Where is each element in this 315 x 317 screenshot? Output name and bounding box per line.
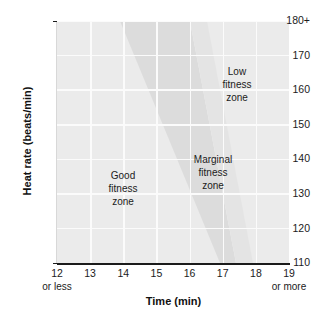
zone-label-good-fitness-line-3: zone — [93, 195, 153, 208]
zone-label-low-fitness: Low fitness zone — [207, 65, 267, 104]
plot-area: Low fitness zone Good fitness zone Margi… — [57, 21, 289, 263]
gridline-x-13 — [90, 21, 92, 263]
gridline-y-140 — [57, 159, 289, 161]
y-tick-label-160: 160 — [263, 84, 315, 95]
gridline-x-17 — [223, 21, 225, 263]
y-tick-mark-110 — [53, 263, 57, 264]
x-axis-title: Time (min) — [57, 295, 290, 307]
gridline-x-14 — [123, 21, 125, 263]
zone-label-marginal-fitness-line-3: zone — [179, 179, 247, 192]
gridline-x-15 — [156, 21, 158, 263]
zone-label-marginal-fitness-line-2: fitness — [179, 166, 247, 179]
gridline-y-120 — [57, 228, 289, 230]
chart-figure: Low fitness zone Good fitness zone Margi… — [0, 0, 315, 317]
gridline-x-18 — [256, 21, 258, 263]
zone-label-low-fitness-line-1: Low — [207, 65, 267, 78]
zone-label-good-fitness-line-2: fitness — [93, 182, 153, 195]
gridline-y-150 — [57, 124, 289, 126]
zone-label-low-fitness-line-3: zone — [207, 91, 267, 104]
x-tick-label-19: 19 — [269, 267, 309, 279]
gridline-x-16 — [190, 21, 192, 263]
y-tick-label-130: 130 — [263, 188, 315, 199]
zone-label-low-fitness-line-2: fitness — [207, 78, 267, 91]
y-axis-title: Heat rate (beats/min) — [21, 51, 33, 231]
zone-label-marginal-fitness-line-1: Marginal — [179, 153, 247, 166]
y-tick-label-170: 170 — [263, 50, 315, 61]
gridline-y-170 — [57, 55, 289, 57]
y-tick-label-180: 180+ — [263, 15, 315, 26]
zone-label-marginal-fitness: Marginal fitness zone — [179, 153, 247, 192]
gridline-y-130 — [57, 193, 289, 195]
gridline-y-180 — [57, 21, 289, 22]
y-tick-mark-180 — [53, 21, 57, 22]
x-tick-sublabel-or-less: or less — [27, 281, 87, 293]
zone-label-good-fitness: Good fitness zone — [93, 169, 153, 208]
zone-label-good-fitness-line-1: Good — [93, 169, 153, 182]
y-tick-label-150: 150 — [263, 119, 315, 130]
y-tick-label-120: 120 — [263, 223, 315, 234]
y-tick-label-140: 140 — [263, 153, 315, 164]
x-tick-sublabel-or-more: or more — [259, 281, 315, 293]
x-axis-line — [57, 263, 290, 265]
y-axis-line — [56, 21, 57, 264]
